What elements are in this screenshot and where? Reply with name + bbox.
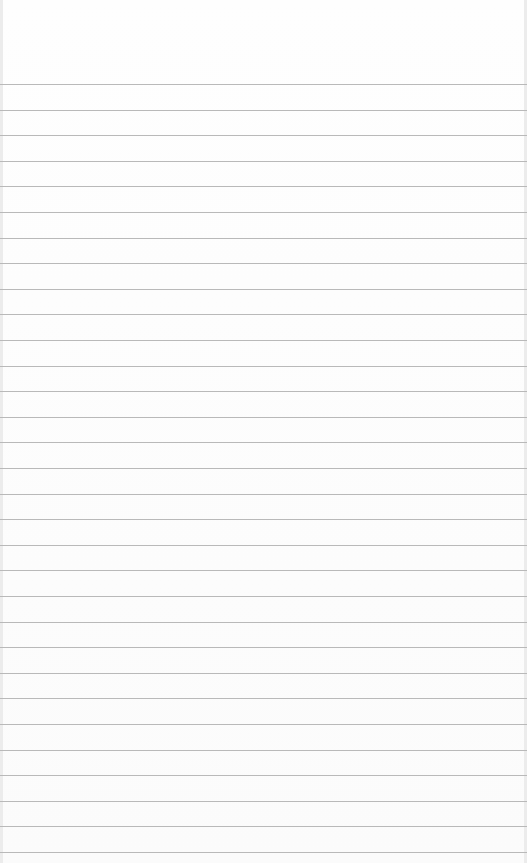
ruled-line xyxy=(0,366,527,367)
ruled-line xyxy=(0,110,527,111)
ruled-line xyxy=(0,673,527,674)
ruled-line xyxy=(0,494,527,495)
ruled-paper xyxy=(0,0,527,863)
ruled-line xyxy=(0,135,527,136)
paper-left-edge xyxy=(0,0,3,863)
ruled-line xyxy=(0,289,527,290)
ruled-line xyxy=(0,775,527,776)
ruled-line xyxy=(0,570,527,571)
ruled-line xyxy=(0,545,527,546)
ruled-line xyxy=(0,161,527,162)
ruled-line xyxy=(0,801,527,802)
ruled-line xyxy=(0,238,527,239)
ruled-line xyxy=(0,314,527,315)
ruled-line xyxy=(0,750,527,751)
ruled-line xyxy=(0,622,527,623)
ruled-line xyxy=(0,391,527,392)
ruled-line xyxy=(0,826,527,827)
ruled-line xyxy=(0,263,527,264)
ruled-line xyxy=(0,468,527,469)
ruled-line xyxy=(0,596,527,597)
ruled-line xyxy=(0,340,527,341)
ruled-line xyxy=(0,212,527,213)
ruled-line xyxy=(0,647,527,648)
ruled-line xyxy=(0,698,527,699)
ruled-line xyxy=(0,417,527,418)
ruled-line xyxy=(0,852,527,853)
ruled-line xyxy=(0,724,527,725)
ruled-line xyxy=(0,84,527,85)
ruled-line xyxy=(0,186,527,187)
ruled-line xyxy=(0,519,527,520)
ruled-line xyxy=(0,442,527,443)
